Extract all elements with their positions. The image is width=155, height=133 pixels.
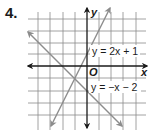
coordinate-graph: y x O y = 2x + 1 y = −x − 2 — [0, 0, 155, 133]
y-axis-label: y — [90, 6, 98, 18]
equation-label-2: y = −x − 2 — [91, 81, 138, 93]
equation-label-1: y = 2x + 1 — [92, 45, 138, 57]
line-y-2x-plus-1 — [51, 8, 110, 126]
origin-label: O — [89, 66, 98, 78]
x-axis-label: x — [140, 66, 148, 78]
